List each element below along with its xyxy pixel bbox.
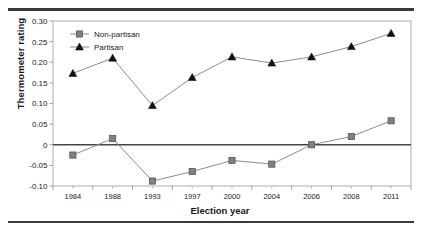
data-point-marker	[189, 168, 195, 174]
x-tick-label: 2000	[224, 192, 241, 201]
y-tick-label: 0.05	[32, 120, 48, 129]
x-axis-ticks: 198419881993199720002004200620082011	[53, 186, 411, 201]
data-point-marker	[110, 135, 116, 141]
x-tick-label: 2004	[263, 192, 280, 201]
data-point-marker	[388, 118, 394, 124]
chart-figure: Thermometer rating Election year 0.300.2…	[0, 0, 422, 229]
x-tick-label: 1984	[65, 192, 82, 201]
y-tick-label: 0.10	[32, 99, 48, 108]
x-tick-label: 1997	[184, 192, 201, 201]
data-point-marker	[348, 133, 354, 139]
y-tick-label: 0	[43, 141, 48, 150]
y-tick-label: 0.30	[32, 17, 48, 26]
y-tick-label: -0.05	[29, 161, 48, 170]
x-tick-label: 2006	[303, 192, 320, 201]
y-tick-label: 0.25	[32, 38, 48, 47]
y-tick-label: -0.10	[29, 182, 48, 191]
data-point-marker	[269, 161, 275, 167]
data-point-marker	[308, 142, 314, 148]
legend-label: Partisan	[94, 43, 123, 52]
plot-area-svg: 0.300.250.200.150.100.050-0.05-0.10 1984…	[0, 0, 422, 229]
x-tick-label: 2008	[343, 192, 360, 201]
y-axis-ticks: 0.300.250.200.150.100.050-0.05-0.10	[29, 17, 53, 191]
x-tick-label: 2011	[383, 192, 399, 201]
x-tick-label: 1993	[144, 192, 161, 201]
x-tick-label: 1988	[104, 192, 121, 201]
legend-marker	[76, 31, 82, 37]
data-point-marker	[70, 152, 76, 158]
y-tick-label: 0.20	[32, 58, 48, 67]
legend-label: Non-partisan	[94, 30, 140, 39]
data-point-marker	[229, 157, 235, 163]
y-tick-label: 0.15	[32, 79, 48, 88]
data-point-marker	[149, 178, 155, 184]
